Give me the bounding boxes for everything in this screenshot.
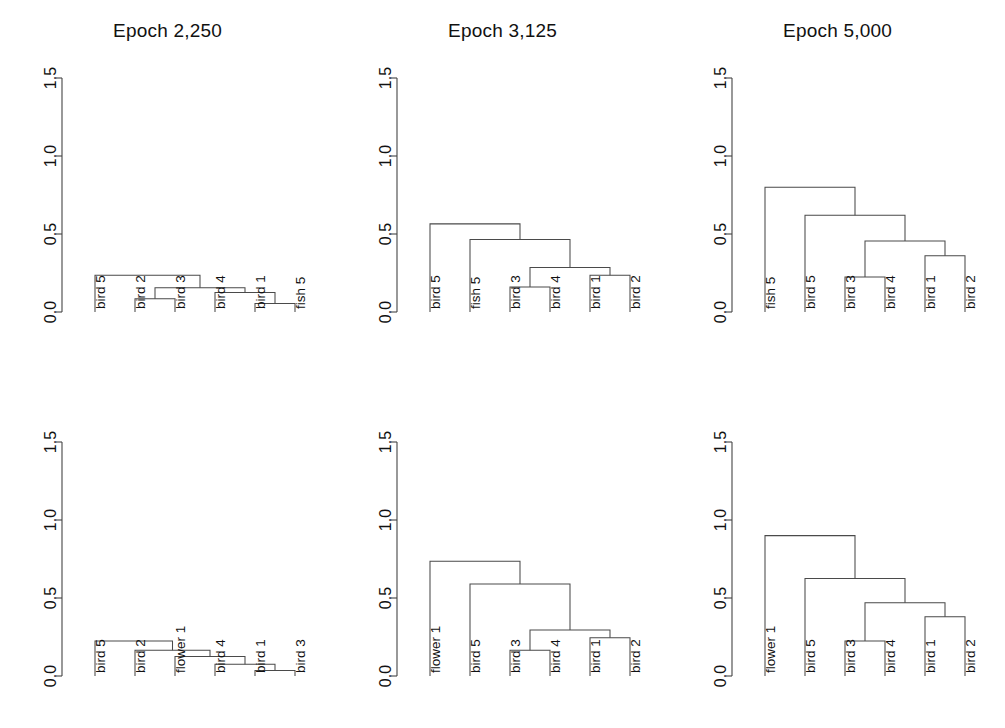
leaf-labels: bird 5fish 5bird 3bird 4bird 1bird 2 [428,275,643,309]
dendrogram-leaf-label: bird 1 [588,639,603,673]
y-axis-tick-label: 0.0 [42,301,59,323]
y-axis-tick: 0.0 [42,665,63,687]
dendrogram-panel-r1c1: 0.00.51.01.5flower 1bird 5bird 3bird 4bi… [335,364,670,728]
y-axis: 0.00.51.01.5 [712,431,733,687]
dendrogram-panel-r0c1: Epoch 3,1250.00.51.01.5bird 5fish 5bird … [335,0,670,364]
dendrogram-panel-r0c2: Epoch 5,0000.00.51.01.5fish 5bird 5bird … [670,0,1005,364]
y-axis: 0.00.51.01.5 [377,67,398,323]
y-axis-tick-label: 0.5 [377,587,394,609]
y-axis-tick-label: 0.0 [712,665,729,687]
dendrogram-leaf-label: bird 1 [588,275,603,309]
dendrogram-figure: Epoch 2,2500.00.51.01.5bird 5bird 2bird … [0,0,1005,728]
dendrogram-leaf-label: bird 2 [628,275,643,309]
dendrogram-leaf-label: fish 5 [468,277,483,309]
y-axis-tick: 0.0 [377,665,398,687]
y-axis-tick: 1.0 [377,145,398,167]
y-axis-tick: 0.0 [712,665,733,687]
dendrogram-link [865,603,945,641]
y-axis: 0.00.51.01.5 [712,67,733,323]
y-axis: 0.00.51.01.5 [377,431,398,687]
y-axis-tick: 1.5 [712,431,733,453]
y-axis-tick: 1.5 [42,431,63,453]
dendrogram-leaf-label: bird 4 [883,275,898,309]
dendrogram-leaf-label: bird 1 [253,639,268,673]
y-axis-tick-label: 1.0 [42,509,59,531]
y-axis-tick: 0.0 [377,301,398,323]
dendrogram-leaf-label: bird 1 [923,639,938,673]
dendrogram-leaf-label: bird 4 [548,639,563,673]
y-axis-tick-label: 1.5 [42,431,59,453]
y-axis-tick-label: 1.0 [377,145,394,167]
dendrogram-link [865,241,945,277]
leaf-labels: fish 5bird 5bird 3bird 4bird 1bird 2 [763,275,978,309]
dendrogram-leaf-label: bird 2 [133,275,148,309]
y-axis-tick: 1.5 [712,67,733,89]
y-axis-tick-label: 0.5 [42,587,59,609]
y-axis: 0.00.51.01.5 [42,67,63,323]
leaf-labels: flower 1bird 5bird 3bird 4bird 1bird 2 [763,626,978,673]
dendrogram-leaf-label: bird 2 [963,275,978,309]
y-axis-tick-label: 0.5 [712,587,729,609]
y-axis-tick-label: 0.0 [42,665,59,687]
dendrogram-leaf-label: bird 2 [133,639,148,673]
y-axis: 0.00.51.01.5 [42,431,63,687]
y-axis-tick: 0.0 [42,301,63,323]
dendrogram-plot: 0.00.51.01.5bird 5bird 2bird 3bird 4bird… [0,0,335,364]
dendrogram-plot: 0.00.51.01.5flower 1bird 5bird 3bird 4bi… [670,364,1005,728]
y-axis-tick-label: 0.0 [377,301,394,323]
dendrogram-leaf-label: bird 5 [93,275,108,309]
dendrogram-panel-r0c0: Epoch 2,2500.00.51.01.5bird 5bird 2bird … [0,0,335,364]
dendrogram-leaf-label: bird 3 [173,275,188,309]
y-axis-tick-label: 0.0 [377,665,394,687]
dendrogram-leaf-label: bird 3 [508,639,523,673]
y-axis-tick: 1.0 [42,145,63,167]
dendrogram-leaf-label: flower 1 [173,626,188,673]
y-axis-tick: 0.5 [712,223,733,245]
y-axis-tick-label: 1.5 [377,67,394,89]
y-axis-tick-label: 0.5 [377,223,394,245]
y-axis-tick-label: 1.5 [377,431,394,453]
dendrogram-leaf-label: bird 5 [803,639,818,673]
y-axis-tick-label: 0.0 [712,301,729,323]
dendrogram-plot: 0.00.51.01.5bird 5fish 5bird 3bird 4bird… [335,0,670,364]
dendrogram-leaf-label: bird 2 [963,639,978,673]
dendrogram-panel-r1c2: 0.00.51.01.5flower 1bird 5bird 3bird 4bi… [670,364,1005,728]
dendrogram-leaf-label: bird 1 [923,275,938,309]
y-axis-tick: 0.5 [42,223,63,245]
dendrogram-link [155,288,245,299]
y-axis-tick-label: 1.5 [712,67,729,89]
dendrogram-leaf-label: bird 4 [548,275,563,309]
dendrogram-leaf-label: bird 5 [468,639,483,673]
dendrogram-leaf-label: bird 5 [93,639,108,673]
y-axis-tick: 1.0 [377,509,398,531]
dendrogram-plot: 0.00.51.01.5flower 1bird 5bird 3bird 4bi… [335,364,670,728]
y-axis-tick-label: 1.5 [712,431,729,453]
dendrogram-leaf-label: bird 4 [213,639,228,673]
y-axis-tick: 0.5 [712,587,733,609]
dendrogram-leaf-label: bird 5 [428,275,443,309]
dendrogram-leaf-label: bird 4 [213,275,228,309]
y-axis-tick: 0.5 [42,587,63,609]
y-axis-tick-label: 1.0 [42,145,59,167]
y-axis-tick-label: 0.5 [42,223,59,245]
dendrogram-leaf-label: bird 5 [803,275,818,309]
y-axis-tick: 0.0 [712,301,733,323]
dendrogram-plot: 0.00.51.01.5bird 5bird 2flower 1bird 4bi… [0,364,335,728]
dendrogram-leaf-label: flower 1 [428,626,443,673]
dendrogram-leaf-label: bird 3 [843,639,858,673]
y-axis-tick: 1.5 [377,67,398,89]
dendrogram-plot: 0.00.51.01.5fish 5bird 5bird 3bird 4bird… [670,0,1005,364]
y-axis-tick-label: 1.0 [712,509,729,531]
y-axis-tick: 1.0 [712,509,733,531]
y-axis-tick: 1.5 [377,431,398,453]
dendrogram-leaf-label: fish 5 [293,277,308,309]
dendrogram-leaf-label: bird 3 [293,639,308,673]
dendrogram-leaf-label: bird 4 [883,639,898,673]
y-axis-tick: 1.5 [42,67,63,89]
y-axis-tick: 0.5 [377,587,398,609]
y-axis-tick: 1.0 [712,145,733,167]
y-axis-tick-label: 1.5 [42,67,59,89]
y-axis-tick-label: 1.0 [377,509,394,531]
y-axis-tick: 0.5 [377,223,398,245]
dendrogram-leaf-label: flower 1 [763,626,778,673]
